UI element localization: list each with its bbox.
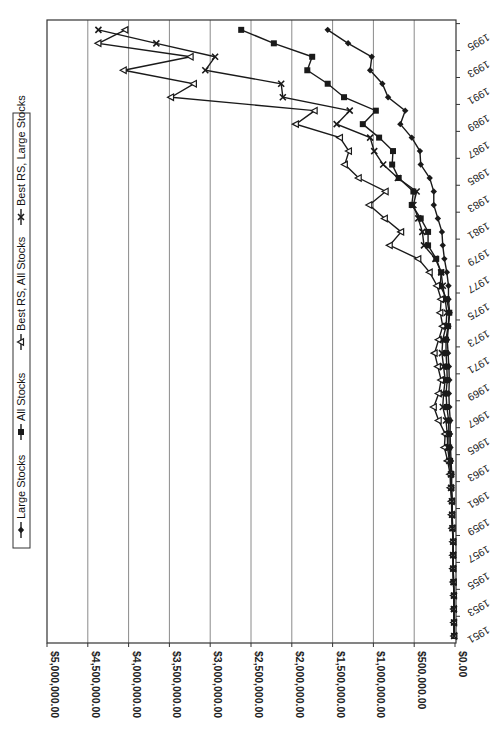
value-tick-label: $2,000,000.00: [294, 651, 306, 718]
diamond-marker-icon: [445, 283, 451, 289]
triangle-marker-icon: [168, 94, 174, 100]
x-marker-icon: [380, 162, 386, 168]
value-tick-label: $1,500,000.00: [335, 651, 347, 718]
series-line: [328, 30, 454, 636]
square-marker-icon: [304, 67, 310, 73]
data-series: [95, 27, 457, 640]
value-tick-label: $3,500,000.00: [171, 651, 183, 718]
year-tick-label: 1987: [466, 139, 492, 161]
year-tick-label: 1955: [466, 570, 492, 592]
year-tick-label: 1973: [466, 328, 492, 350]
diamond-marker-icon: [369, 54, 375, 60]
square-marker-icon: [309, 54, 315, 60]
diamond-marker-icon: [431, 188, 437, 194]
triangle-marker-icon: [120, 67, 126, 73]
legend-label: Best RS, Large Stocks: [15, 95, 27, 206]
value-tick-label: $5,000,000.00: [49, 651, 61, 718]
year-tick-label: 1965: [466, 436, 492, 458]
triangle-marker-icon: [95, 40, 101, 46]
year-tick-label: 1959: [466, 517, 492, 539]
triangle-marker-icon: [435, 417, 441, 423]
value-tick-label: $4,500,000.00: [90, 651, 102, 718]
series-line: [241, 30, 454, 636]
triangle-marker-icon: [345, 148, 351, 154]
diamond-marker-icon: [441, 256, 447, 262]
value-tick-label: $0.00: [457, 651, 469, 677]
year-tick-label: 1967: [466, 409, 492, 431]
chart: $0.00$500,000.00$1,000,000.00$1,500,000.…: [0, 0, 502, 754]
legend: Large StocksAll StocksBest RS, All Stock…: [13, 95, 30, 548]
value-tick-label: $500,000.00: [416, 651, 428, 710]
year-tick-label: 1953: [466, 597, 492, 619]
value-axis-ticks: $0.00$500,000.00$1,000,000.00$1,500,000.…: [47, 643, 469, 718]
year-tick-label: 1979: [466, 247, 492, 269]
year-tick-label: 1977: [466, 274, 492, 296]
diamond-marker-icon: [435, 215, 441, 221]
gridlines: [88, 20, 414, 643]
diamond-marker-icon: [440, 242, 446, 248]
legend-item: Best RS, Large Stocks: [15, 95, 27, 225]
legend-label: All Stocks: [15, 372, 27, 421]
triangle-marker-icon: [336, 134, 342, 140]
year-tick-label: 1989: [466, 112, 492, 134]
diamond-marker-icon: [444, 269, 450, 275]
diamond-marker-icon: [431, 202, 437, 208]
triangle-marker-icon: [187, 54, 193, 60]
triangle-marker-icon: [434, 283, 440, 289]
value-tick-label: $2,500,000.00: [253, 651, 265, 718]
legend-label: Best RS, All Stocks: [15, 236, 27, 331]
square-marker-icon: [373, 108, 379, 114]
year-tick-label: 1983: [466, 193, 492, 215]
year-tick-label: 1991: [466, 85, 492, 107]
year-tick-label: 1961: [466, 490, 492, 512]
legend-label: Large Stocks: [15, 454, 27, 519]
year-axis-ticks: 1951195319551957195919611963196519671969…: [456, 24, 492, 647]
triangle-marker-icon: [292, 121, 298, 127]
year-tick-label: 1957: [466, 543, 492, 565]
year-tick-label: 1981: [466, 220, 492, 242]
diamond-marker-icon: [439, 229, 445, 235]
triangle-marker-icon: [341, 161, 347, 167]
legend-items: Large StocksAll StocksBest RS, All Stock…: [15, 95, 27, 538]
triangle-marker-icon: [366, 202, 372, 208]
year-tick-label: 1969: [466, 382, 492, 404]
year-tick-label: 1951: [466, 624, 492, 646]
value-tick-label: $4,000,000.00: [131, 651, 143, 718]
triangle-marker-icon: [437, 310, 443, 316]
year-tick-label: 1963: [466, 463, 492, 485]
triangle-marker-icon: [434, 363, 440, 369]
series-all-stocks: [238, 27, 457, 639]
triangle-marker-icon: [415, 256, 421, 262]
x-marker-icon: [334, 121, 340, 127]
diamond-marker-icon: [417, 148, 423, 154]
square-marker-icon: [389, 162, 395, 168]
triangle-marker-icon: [122, 27, 128, 33]
series-large-stocks: [325, 27, 458, 640]
year-tick-label: 1985: [466, 166, 492, 188]
year-tick-label: 1995: [466, 32, 492, 54]
square-marker-icon: [325, 81, 331, 87]
square-marker-icon: [271, 40, 277, 46]
square-marker-icon: [390, 148, 396, 154]
year-tick-label: 1993: [466, 59, 492, 81]
triangle-marker-icon: [386, 242, 392, 248]
square-marker-icon: [18, 429, 24, 435]
year-tick-label: 1975: [466, 301, 492, 323]
square-marker-icon: [376, 135, 382, 141]
square-marker-icon: [360, 121, 366, 127]
triangle-marker-icon: [431, 350, 437, 356]
square-marker-icon: [341, 94, 347, 100]
triangle-marker-icon: [430, 404, 436, 410]
value-tick-label: $1,000,000.00: [375, 651, 387, 718]
value-tick-label: $3,000,000.00: [212, 651, 224, 718]
square-marker-icon: [238, 27, 244, 33]
square-marker-icon: [425, 229, 431, 235]
year-tick-label: 1971: [466, 355, 492, 377]
